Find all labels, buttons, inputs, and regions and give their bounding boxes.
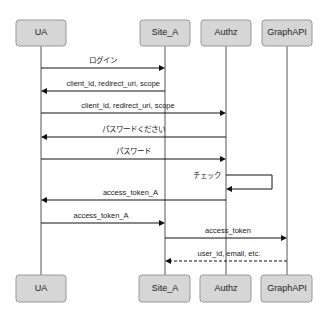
message-access-token-a: access_token_A	[41, 211, 165, 226]
message-label: client_id, redirect_uri, scope	[67, 79, 160, 88]
actor-graphapi-bottom: GraphAPI	[261, 275, 312, 302]
actor-label: UA	[35, 27, 48, 37]
arrowhead-left-icon	[165, 258, 171, 264]
message-client-params-return: client_id, redirect_uri, scope	[41, 79, 165, 94]
actor-ua-bottom: UA	[16, 275, 66, 302]
message-label: ログイン	[89, 55, 117, 65]
arrowhead-left-icon	[41, 197, 47, 203]
actor-label: UA	[35, 283, 48, 293]
actor-site-a-bottom: Site_A	[139, 275, 190, 302]
message-label: user_id, email, etc.	[198, 249, 261, 258]
actor-graphapi-top: GraphAPI	[262, 20, 312, 46]
actor-label: GraphAPI	[267, 283, 307, 293]
arrowhead-left-icon	[41, 88, 47, 94]
arrowhead-right-icon	[220, 110, 226, 116]
message-label: access_token_A	[103, 188, 158, 197]
arrowhead-right-icon	[159, 220, 165, 226]
arrowhead-left-icon	[226, 186, 232, 192]
message-label: パスワードください	[102, 125, 165, 134]
actor-label: Site_A	[152, 27, 179, 37]
message-password-request: パスワードください	[41, 125, 226, 140]
actor-label: Authz	[214, 27, 238, 37]
arrowhead-right-icon	[159, 65, 165, 71]
message-access-token-a-return: access_token_A	[41, 188, 226, 203]
actor-label: GraphAPI	[267, 27, 307, 37]
arrowhead-left-icon	[41, 134, 47, 140]
message-label: パスワード	[116, 147, 151, 156]
message-client-params-authz: client_id, redirect_uri, scope	[41, 101, 226, 116]
message-label: client_id, redirect_uri, scope	[81, 101, 174, 110]
message-label: チェック	[193, 171, 221, 180]
actor-authz-top: Authz	[201, 20, 251, 46]
actor-label: Site_A	[152, 283, 179, 293]
message-label: access_token	[205, 226, 251, 235]
message-label: access_token_A	[73, 211, 128, 220]
message-login: ログイン	[41, 55, 165, 71]
actor-authz-bottom: Authz	[200, 275, 251, 302]
message-check-self: チェック	[193, 171, 272, 192]
actor-label: Authz	[214, 283, 238, 293]
arrowhead-right-icon	[220, 156, 226, 162]
actor-ua-top: UA	[16, 20, 66, 46]
sequence-diagram: UA Site_A Authz GraphAPI ログイン client_id,…	[0, 0, 328, 315]
actor-site-a-top: Site_A	[140, 20, 190, 46]
arrowhead-right-icon	[281, 235, 287, 241]
message-password: パスワード	[41, 147, 226, 162]
